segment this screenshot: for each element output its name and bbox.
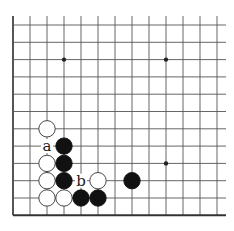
white-stone [39,190,55,206]
black-stone [56,155,72,171]
star-point [62,57,66,61]
white-stone [39,173,55,189]
black-stone [90,190,106,206]
black-stone [73,190,89,206]
star-point [164,57,168,61]
point-label-b: b [76,172,86,190]
white-stone [39,121,55,137]
white-stone [90,173,106,189]
black-stone [56,173,72,189]
go-board: ab [0,0,234,231]
star-point [164,161,168,165]
black-stone [56,138,72,154]
white-stone [56,190,72,206]
black-stone [124,173,140,189]
white-stone [39,155,55,171]
point-label-a: a [43,137,52,155]
